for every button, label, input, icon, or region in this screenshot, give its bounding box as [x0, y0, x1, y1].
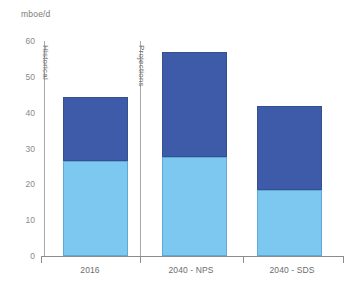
x-axis-tick-end	[343, 256, 344, 263]
y-tick-label-20: 20	[26, 179, 35, 189]
chart-container: mboe/d 0 10 20 30 40 50 60 Historical Pr…	[0, 0, 363, 285]
y-axis: 0 10 20 30 40 50 60	[0, 41, 38, 256]
x-category-label-2040-sds: 2040 - SDS	[270, 265, 315, 275]
bar-2040-sds-upper-segment[interactable]	[257, 106, 322, 190]
bar-2040-nps-lower-segment[interactable]	[162, 157, 227, 256]
bar-2016-upper-segment[interactable]	[63, 97, 128, 162]
x-axis-tick-1	[140, 256, 141, 263]
y-tick-label-50: 50	[26, 72, 35, 82]
x-axis-tick-start	[41, 256, 42, 263]
bar-2040-sds[interactable]	[257, 106, 322, 257]
y-tick-label-40: 40	[26, 108, 35, 118]
bar-2016-lower-segment[interactable]	[63, 161, 128, 256]
bar-2040-nps[interactable]	[162, 52, 227, 256]
x-axis-line	[41, 256, 344, 257]
plot-area: Historical Projections	[41, 41, 344, 256]
x-axis-tick-2	[243, 256, 244, 263]
x-category-label-2016: 2016	[80, 265, 99, 275]
bar-2040-sds-lower-segment[interactable]	[257, 190, 322, 256]
x-category-label-2040-nps: 2040 - NPS	[169, 265, 214, 275]
y-tick-label-10: 10	[26, 215, 35, 225]
historical-divider-label: Historical	[41, 45, 50, 80]
y-axis-unit-label: mboe/d	[21, 9, 51, 19]
projections-divider-label: Projections	[137, 45, 146, 87]
bar-2040-nps-upper-segment[interactable]	[162, 52, 227, 158]
bar-2016[interactable]	[63, 97, 128, 256]
y-tick-label-60: 60	[26, 36, 35, 46]
y-tick-label-30: 30	[26, 144, 35, 154]
y-tick-label-0: 0	[30, 251, 35, 261]
